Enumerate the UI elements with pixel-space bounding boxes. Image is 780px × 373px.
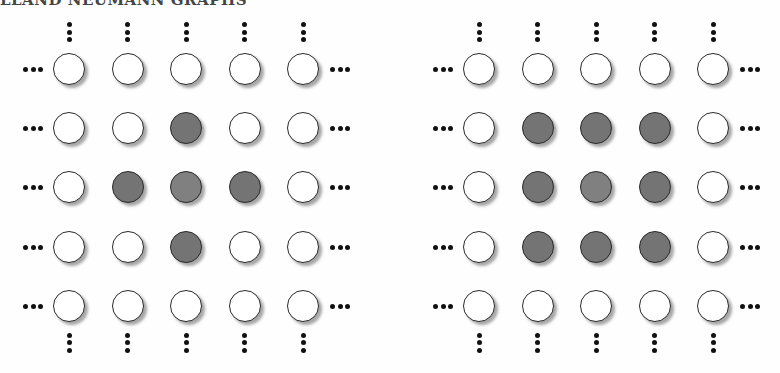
empty-node [112, 290, 144, 322]
ellipsis-left-icon [433, 245, 453, 250]
empty-node [463, 112, 495, 144]
neighbor-node [229, 171, 261, 203]
empty-node [522, 53, 554, 85]
ellipsis-top-icon [711, 22, 716, 42]
empty-node [463, 231, 495, 263]
empty-node [287, 112, 319, 144]
empty-node [697, 112, 729, 144]
empty-node [580, 290, 612, 322]
center-node [580, 171, 612, 203]
empty-node [229, 112, 261, 144]
ellipsis-left-icon [433, 126, 453, 131]
ellipsis-bottom-icon [711, 333, 716, 353]
empty-node [287, 231, 319, 263]
ellipsis-right-icon [330, 126, 350, 131]
empty-node [463, 171, 495, 203]
ellipsis-top-icon [594, 22, 599, 42]
neighbor-node [522, 171, 554, 203]
ellipsis-left-icon [23, 67, 43, 72]
neighbor-node [170, 112, 202, 144]
ellipsis-top-icon [125, 22, 130, 42]
ellipsis-right-icon [330, 185, 350, 190]
ellipsis-bottom-icon [477, 333, 482, 353]
ellipsis-top-icon [242, 22, 247, 42]
ellipsis-left-icon [23, 126, 43, 131]
center-node [170, 171, 202, 203]
ellipsis-bottom-icon [535, 333, 540, 353]
empty-node [522, 290, 554, 322]
ellipsis-left-icon [23, 185, 43, 190]
empty-node [53, 231, 85, 263]
empty-node [112, 112, 144, 144]
ellipsis-right-icon [330, 67, 350, 72]
neighbor-node [522, 112, 554, 144]
empty-node [463, 53, 495, 85]
empty-node [697, 290, 729, 322]
ellipsis-bottom-icon [125, 333, 130, 353]
ellipsis-right-icon [740, 304, 760, 309]
ellipsis-bottom-icon [652, 333, 657, 353]
neighbor-node [170, 231, 202, 263]
empty-node [53, 290, 85, 322]
ellipsis-right-icon [740, 67, 760, 72]
empty-node [287, 171, 319, 203]
empty-node [639, 290, 671, 322]
empty-node [112, 53, 144, 85]
empty-node [287, 53, 319, 85]
empty-node [229, 290, 261, 322]
empty-node [170, 290, 202, 322]
ellipsis-right-icon [330, 245, 350, 250]
empty-node [463, 290, 495, 322]
ellipsis-top-icon [301, 22, 306, 42]
empty-node [112, 231, 144, 263]
empty-node [287, 290, 319, 322]
empty-node [697, 231, 729, 263]
ellipsis-left-icon [23, 245, 43, 250]
diagram-title: LLAND NEUMANN GRAPHS [0, 0, 247, 9]
empty-node [170, 53, 202, 85]
ellipsis-bottom-icon [594, 333, 599, 353]
neighbor-node [112, 171, 144, 203]
ellipsis-right-icon [330, 304, 350, 309]
ellipsis-left-icon [433, 304, 453, 309]
neighbor-node [639, 112, 671, 144]
ellipsis-top-icon [184, 22, 189, 42]
ellipsis-bottom-icon [242, 333, 247, 353]
ellipsis-bottom-icon [184, 333, 189, 353]
ellipsis-bottom-icon [67, 333, 72, 353]
empty-node [639, 53, 671, 85]
ellipsis-top-icon [652, 22, 657, 42]
ellipsis-left-icon [433, 185, 453, 190]
empty-node [580, 53, 612, 85]
empty-node [53, 53, 85, 85]
ellipsis-top-icon [477, 22, 482, 42]
ellipsis-bottom-icon [301, 333, 306, 353]
ellipsis-top-icon [67, 22, 72, 42]
empty-node [697, 171, 729, 203]
neighbor-node [580, 112, 612, 144]
empty-node [53, 112, 85, 144]
ellipsis-right-icon [740, 126, 760, 131]
ellipsis-top-icon [535, 22, 540, 42]
neighbor-node [639, 171, 671, 203]
neighbor-node [580, 231, 612, 263]
empty-node [229, 53, 261, 85]
ellipsis-right-icon [740, 185, 760, 190]
empty-node [697, 53, 729, 85]
empty-node [229, 231, 261, 263]
ellipsis-right-icon [740, 245, 760, 250]
ellipsis-left-icon [433, 67, 453, 72]
neighbor-node [639, 231, 671, 263]
empty-node [53, 171, 85, 203]
neighbor-node [522, 231, 554, 263]
ellipsis-left-icon [23, 304, 43, 309]
